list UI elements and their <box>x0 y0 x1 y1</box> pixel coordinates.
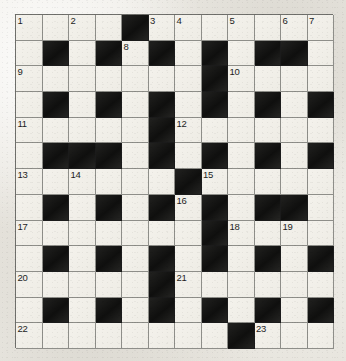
crossword-letter-cell[interactable] <box>308 195 335 221</box>
crossword-letter-cell[interactable] <box>281 169 308 195</box>
crossword-letter-cell[interactable] <box>96 118 123 144</box>
crossword-letter-cell[interactable] <box>175 298 202 324</box>
crossword-letter-cell[interactable] <box>228 143 255 169</box>
crossword-letter-cell[interactable] <box>43 118 70 144</box>
crossword-letter-cell[interactable] <box>122 323 149 349</box>
crossword-letter-cell[interactable] <box>69 41 96 67</box>
crossword-letter-cell[interactable] <box>122 66 149 92</box>
crossword-letter-cell[interactable]: 10 <box>228 66 255 92</box>
crossword-letter-cell[interactable] <box>149 221 176 247</box>
crossword-letter-cell[interactable] <box>255 272 282 298</box>
crossword-letter-cell[interactable] <box>122 272 149 298</box>
crossword-letter-cell[interactable]: 7 <box>308 15 335 41</box>
crossword-letter-cell[interactable] <box>122 195 149 221</box>
crossword-letter-cell[interactable] <box>228 41 255 67</box>
crossword-letter-cell[interactable]: 12 <box>175 118 202 144</box>
crossword-letter-cell[interactable] <box>281 246 308 272</box>
crossword-letter-cell[interactable] <box>202 15 229 41</box>
crossword-letter-cell[interactable]: 13 <box>16 169 43 195</box>
crossword-letter-cell[interactable] <box>96 221 123 247</box>
crossword-letter-cell[interactable] <box>69 66 96 92</box>
crossword-letter-cell[interactable] <box>228 118 255 144</box>
crossword-letter-cell[interactable] <box>43 272 70 298</box>
crossword-letter-cell[interactable] <box>255 66 282 92</box>
crossword-letter-cell[interactable] <box>308 169 335 195</box>
crossword-letter-cell[interactable] <box>122 92 149 118</box>
crossword-letter-cell[interactable] <box>308 66 335 92</box>
crossword-letter-cell[interactable] <box>149 169 176 195</box>
crossword-letter-cell[interactable] <box>308 41 335 67</box>
crossword-letter-cell[interactable] <box>175 66 202 92</box>
crossword-letter-cell[interactable]: 15 <box>202 169 229 195</box>
crossword-letter-cell[interactable] <box>16 92 43 118</box>
crossword-letter-cell[interactable] <box>175 41 202 67</box>
crossword-grid[interactable]: 1234567891011121314151617181920212223 <box>15 14 333 348</box>
crossword-letter-cell[interactable] <box>96 169 123 195</box>
crossword-letter-cell[interactable] <box>96 272 123 298</box>
crossword-letter-cell[interactable] <box>122 169 149 195</box>
crossword-letter-cell[interactable] <box>122 221 149 247</box>
crossword-letter-cell[interactable] <box>175 143 202 169</box>
crossword-letter-cell[interactable] <box>43 66 70 92</box>
crossword-letter-cell[interactable] <box>122 118 149 144</box>
crossword-letter-cell[interactable] <box>255 221 282 247</box>
crossword-letter-cell[interactable] <box>228 298 255 324</box>
crossword-letter-cell[interactable] <box>16 195 43 221</box>
crossword-letter-cell[interactable] <box>281 66 308 92</box>
crossword-letter-cell[interactable] <box>255 15 282 41</box>
crossword-letter-cell[interactable]: 14 <box>69 169 96 195</box>
crossword-letter-cell[interactable] <box>281 272 308 298</box>
crossword-letter-cell[interactable]: 1 <box>16 15 43 41</box>
crossword-letter-cell[interactable] <box>122 298 149 324</box>
crossword-letter-cell[interactable]: 11 <box>16 118 43 144</box>
crossword-letter-cell[interactable]: 3 <box>149 15 176 41</box>
crossword-letter-cell[interactable] <box>69 195 96 221</box>
crossword-letter-cell[interactable]: 9 <box>16 66 43 92</box>
crossword-letter-cell[interactable] <box>16 298 43 324</box>
crossword-letter-cell[interactable] <box>43 323 70 349</box>
crossword-letter-cell[interactable] <box>281 118 308 144</box>
crossword-letter-cell[interactable] <box>308 323 335 349</box>
crossword-letter-cell[interactable] <box>281 92 308 118</box>
crossword-letter-cell[interactable] <box>281 298 308 324</box>
crossword-letter-cell[interactable] <box>96 323 123 349</box>
crossword-letter-cell[interactable] <box>255 118 282 144</box>
crossword-letter-cell[interactable] <box>175 92 202 118</box>
crossword-letter-cell[interactable] <box>255 169 282 195</box>
crossword-letter-cell[interactable]: 5 <box>228 15 255 41</box>
crossword-letter-cell[interactable] <box>281 323 308 349</box>
crossword-letter-cell[interactable] <box>281 143 308 169</box>
crossword-letter-cell[interactable] <box>228 246 255 272</box>
crossword-letter-cell[interactable] <box>228 272 255 298</box>
crossword-letter-cell[interactable] <box>202 272 229 298</box>
crossword-letter-cell[interactable] <box>69 118 96 144</box>
crossword-letter-cell[interactable] <box>308 221 335 247</box>
crossword-letter-cell[interactable] <box>69 298 96 324</box>
crossword-letter-cell[interactable] <box>16 246 43 272</box>
crossword-letter-cell[interactable] <box>43 169 70 195</box>
crossword-letter-cell[interactable]: 16 <box>175 195 202 221</box>
crossword-letter-cell[interactable]: 2 <box>69 15 96 41</box>
crossword-letter-cell[interactable] <box>69 272 96 298</box>
crossword-letter-cell[interactable]: 20 <box>16 272 43 298</box>
crossword-letter-cell[interactable] <box>175 221 202 247</box>
crossword-letter-cell[interactable] <box>16 41 43 67</box>
crossword-letter-cell[interactable] <box>228 195 255 221</box>
crossword-letter-cell[interactable] <box>43 15 70 41</box>
crossword-letter-cell[interactable] <box>202 323 229 349</box>
crossword-letter-cell[interactable]: 6 <box>281 15 308 41</box>
crossword-letter-cell[interactable] <box>69 92 96 118</box>
crossword-letter-cell[interactable] <box>122 246 149 272</box>
crossword-letter-cell[interactable]: 22 <box>16 323 43 349</box>
crossword-letter-cell[interactable]: 23 <box>255 323 282 349</box>
crossword-letter-cell[interactable] <box>149 66 176 92</box>
crossword-letter-cell[interactable] <box>16 143 43 169</box>
crossword-letter-cell[interactable] <box>228 92 255 118</box>
crossword-letter-cell[interactable]: 4 <box>175 15 202 41</box>
crossword-letter-cell[interactable] <box>202 118 229 144</box>
crossword-letter-cell[interactable] <box>96 66 123 92</box>
crossword-letter-cell[interactable] <box>69 221 96 247</box>
crossword-letter-cell[interactable] <box>96 15 123 41</box>
crossword-letter-cell[interactable] <box>228 169 255 195</box>
crossword-letter-cell[interactable]: 21 <box>175 272 202 298</box>
